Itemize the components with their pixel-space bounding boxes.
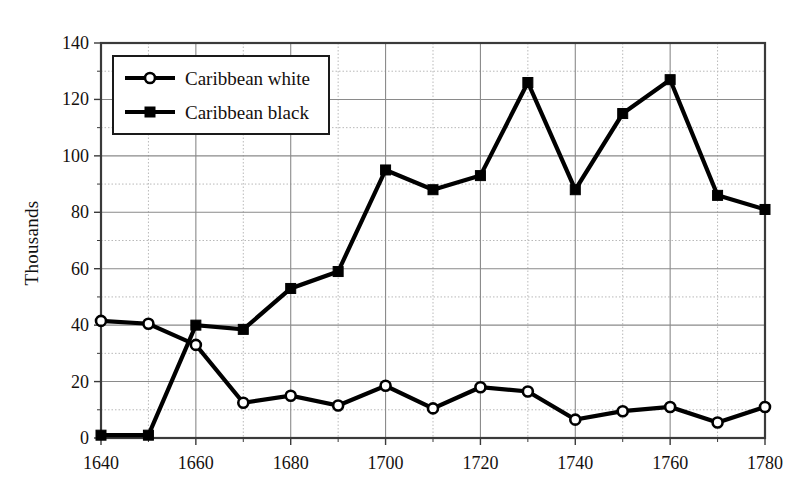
x-tick-label: 1720 xyxy=(462,453,498,473)
chart-legend: Caribbean whiteCaribbean black xyxy=(113,56,329,134)
line-chart-plot: 020406080100120140 164016601680170017201… xyxy=(0,0,809,499)
y-tick-label: 120 xyxy=(62,89,89,109)
x-axis-tick-labels: 16401660168017001720174017601780 xyxy=(83,453,783,473)
y-tick-label: 20 xyxy=(71,372,89,392)
x-tick-label: 1680 xyxy=(273,453,309,473)
x-tick-label: 1700 xyxy=(368,453,404,473)
y-tick-label: 80 xyxy=(71,202,89,222)
legend-label: Caribbean white xyxy=(185,68,310,89)
y-tick-label: 60 xyxy=(71,259,89,279)
x-tick-label: 1780 xyxy=(747,453,783,473)
series-1 xyxy=(96,316,770,428)
y-axis-tick-labels: 020406080100120140 xyxy=(62,33,89,448)
x-tick-label: 1660 xyxy=(178,453,214,473)
x-tick-label: 1740 xyxy=(557,453,593,473)
y-tick-label: 40 xyxy=(71,315,89,335)
y-tick-label: 0 xyxy=(80,428,89,448)
legend-label: Caribbean black xyxy=(185,102,309,123)
x-tick-label: 1760 xyxy=(652,453,688,473)
chart-figure: Thousands 020406080100120140 16401660168… xyxy=(0,0,809,499)
y-tick-label: 100 xyxy=(62,146,89,166)
y-tick-label: 140 xyxy=(62,33,89,53)
x-tick-label: 1640 xyxy=(83,453,119,473)
